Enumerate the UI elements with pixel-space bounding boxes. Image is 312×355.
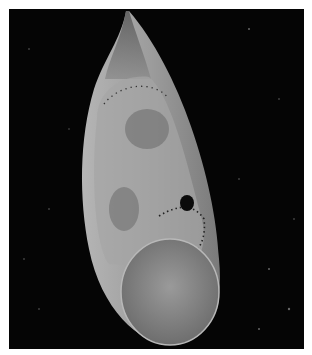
yolk-sac: [121, 239, 219, 345]
photo-frame: [9, 9, 304, 349]
embryo-body: [94, 77, 204, 269]
egg-capsule-illustration: [9, 9, 304, 349]
embryo-eye: [180, 195, 194, 211]
